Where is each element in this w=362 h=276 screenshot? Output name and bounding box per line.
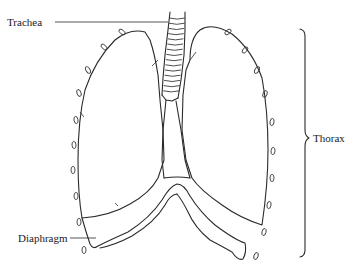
trachea-ring <box>163 91 179 92</box>
rib-oval <box>253 252 259 260</box>
diaphragm <box>82 184 246 259</box>
rib-oval <box>271 147 276 155</box>
rib-oval <box>100 43 108 51</box>
trachea-ring <box>166 60 182 61</box>
trachea-ring <box>167 44 183 45</box>
rib-oval <box>74 192 78 199</box>
trachea-rings <box>163 18 185 92</box>
rib-oval <box>261 228 267 236</box>
lungs-diagram: Trachea Diaphragm Thorax <box>0 0 362 276</box>
trachea-ring <box>164 86 180 87</box>
trachea-ring <box>165 70 181 71</box>
trachea-ring <box>168 34 184 35</box>
trachea-ring <box>166 54 182 55</box>
thorax-brace <box>300 29 309 257</box>
thorax-label: Thorax <box>313 132 345 144</box>
right-lung <box>182 27 268 225</box>
rib-oval <box>266 201 271 209</box>
rib-oval <box>270 174 274 181</box>
rib-oval <box>241 46 249 54</box>
trachea-ring <box>168 39 184 40</box>
mediastinum <box>162 100 190 178</box>
trachea-ring <box>169 28 185 29</box>
rib-oval <box>71 166 75 173</box>
rib-oval <box>73 116 78 124</box>
trachea-ring <box>169 23 185 24</box>
trachea-ring <box>170 18 186 19</box>
rib-oval <box>269 118 274 126</box>
trachea-label: Trachea <box>7 16 42 28</box>
rib-oval <box>76 89 82 97</box>
rib-markers <box>71 28 275 260</box>
diaphragm-label: Diaphragm <box>18 232 68 244</box>
trachea <box>162 12 185 101</box>
rib-oval <box>82 246 86 253</box>
trachea-ring <box>167 49 183 50</box>
left-lung <box>78 31 164 218</box>
trachea-ring <box>164 80 180 81</box>
rib-oval <box>84 66 91 74</box>
rib-oval <box>77 218 81 225</box>
rib-oval <box>118 28 126 36</box>
rib-oval <box>72 141 77 149</box>
trachea-ring <box>165 75 181 76</box>
trachea-ring <box>165 65 181 66</box>
